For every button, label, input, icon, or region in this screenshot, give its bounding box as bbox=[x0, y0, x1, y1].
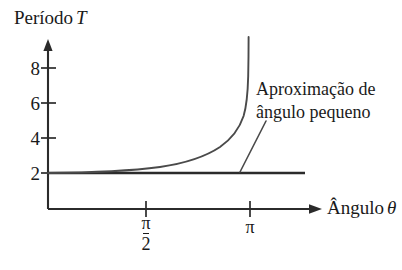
fraction-denominator: 2 bbox=[141, 235, 150, 253]
x-tick-label-pi: π bbox=[236, 218, 264, 236]
x-axis-title-variable: θ bbox=[384, 197, 396, 218]
x-tick-label-pi-half: π 2 bbox=[130, 214, 162, 254]
x-axis-title: Ânguloθ bbox=[327, 198, 396, 217]
y-axis-title-text: Período bbox=[14, 7, 73, 28]
y-axis-arrowhead bbox=[43, 39, 52, 51]
period-vs-angle-chart: PeríodoT Ânguloθ 8 6 4 2 π 2 π Aproximaç… bbox=[0, 0, 402, 270]
y-tick-label-8: 8 bbox=[18, 59, 40, 78]
x-axis-arrowhead bbox=[309, 204, 322, 214]
fraction-pi-over-2: π 2 bbox=[141, 214, 150, 254]
annotation-leader-line bbox=[240, 121, 266, 172]
y-tick-label-4: 4 bbox=[18, 129, 40, 148]
y-axis-title-variable: T bbox=[73, 7, 87, 28]
series-exact-period-curve bbox=[48, 37, 249, 173]
annotation-line-2: ângulo pequeno bbox=[256, 101, 375, 124]
x-axis-title-text: Ângulo bbox=[327, 197, 384, 218]
y-axis-title: PeríodoT bbox=[14, 8, 87, 27]
fraction-numerator: π bbox=[141, 214, 150, 232]
chart-plot-area bbox=[0, 0, 402, 270]
annotation-small-angle-approximation: Aproximação de ângulo pequeno bbox=[256, 78, 375, 124]
y-tick-label-2: 2 bbox=[18, 164, 40, 183]
y-tick-label-6: 6 bbox=[18, 94, 40, 113]
annotation-line-1: Aproximação de bbox=[256, 78, 375, 101]
